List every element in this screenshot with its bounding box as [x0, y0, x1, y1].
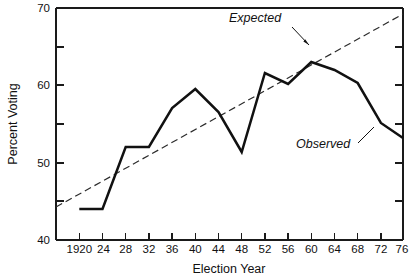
x-tick-label-1948: 48 — [235, 243, 248, 255]
x-axis-ticks — [79, 233, 403, 240]
x-tick-label-1924: 24 — [97, 243, 110, 255]
x-tick-label-1960: 60 — [305, 243, 318, 255]
series-expected-line — [56, 14, 403, 207]
x-axis-title: Election Year — [193, 262, 266, 276]
y-axis-title: Percent Voting — [6, 83, 20, 164]
x-tick-label-1972: 72 — [375, 243, 388, 255]
y-axis-tick-labels: 70 60 50 40 — [37, 2, 50, 246]
x-tick-label-1920: 1920 — [67, 243, 93, 255]
annotation-expected: Expected — [229, 11, 309, 45]
y-tick-label-60: 60 — [37, 79, 50, 91]
series-observed-line — [79, 62, 403, 209]
x-tick-label-1944: 44 — [212, 243, 225, 255]
x-axis-tick-labels: 1920 24 28 32 36 40 44 48 52 56 60 64 68… — [67, 243, 409, 255]
x-tick-label-1956: 56 — [282, 243, 295, 255]
x-tick-label-1936: 36 — [166, 243, 179, 255]
annotation-expected-label: Expected — [229, 11, 282, 25]
x-tick-label-1964: 64 — [328, 243, 341, 255]
annotation-observed: Observed — [296, 127, 374, 151]
voter-turnout-line-chart: 70 60 50 40 1920 24 28 — [0, 0, 414, 280]
x-tick-label-1968: 68 — [351, 243, 364, 255]
annotation-observed-leader — [358, 127, 374, 143]
x-tick-label-1928: 28 — [119, 243, 132, 255]
y-tick-label-70: 70 — [37, 2, 50, 14]
y-tick-label-40: 40 — [37, 234, 50, 246]
annotation-observed-label: Observed — [296, 137, 351, 151]
y-tick-label-50: 50 — [37, 157, 50, 169]
plot-frame — [56, 8, 403, 240]
x-tick-label-1952: 52 — [259, 243, 272, 255]
x-tick-label-1940: 40 — [189, 243, 202, 255]
chart-figure: 70 60 50 40 1920 24 28 — [0, 0, 414, 280]
x-tick-label-1976: 76 — [396, 243, 409, 255]
y-axis-ticks-right — [395, 47, 403, 201]
x-tick-label-1932: 32 — [143, 243, 156, 255]
